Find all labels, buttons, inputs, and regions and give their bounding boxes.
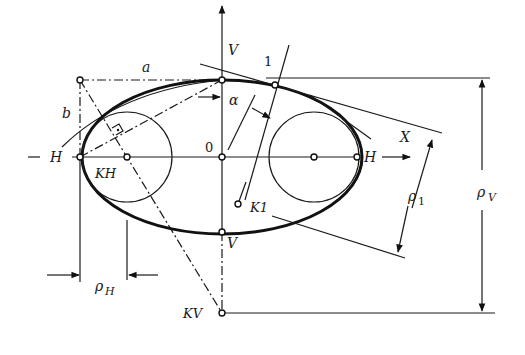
label-rho-1: ρ 1	[407, 188, 425, 208]
label-kh: KH	[94, 166, 117, 181]
label-alpha: α	[229, 92, 239, 108]
svg-text:1: 1	[418, 195, 425, 208]
ellipse-curvature-diagram: V a b α 0 1 H H KH K1 V KV X ρ H ρ 1 ρ V	[0, 0, 525, 355]
label-v-top: V	[228, 42, 240, 58]
label-v-bottom: V	[227, 235, 239, 251]
svg-text:ρ: ρ	[94, 278, 104, 294]
svg-text:V: V	[488, 191, 497, 204]
svg-text:ρ: ρ	[476, 184, 486, 200]
label-a: a	[142, 59, 150, 75]
label-point-1: 1	[264, 54, 272, 69]
label-h-right: H	[363, 149, 377, 165]
label-h-left: H	[49, 149, 63, 165]
svg-text:ρ: ρ	[407, 188, 417, 204]
label-rho-h: ρ H	[94, 278, 115, 298]
label-kv: KV	[182, 306, 204, 321]
svg-text:H: H	[104, 285, 115, 298]
rho-v-dimension	[222, 80, 495, 313]
label-origin: 0	[205, 140, 213, 155]
label-b: b	[62, 105, 71, 121]
label-k1: K1	[249, 200, 268, 215]
label-rho-v: ρ V	[476, 184, 497, 204]
label-x: X	[399, 129, 411, 145]
